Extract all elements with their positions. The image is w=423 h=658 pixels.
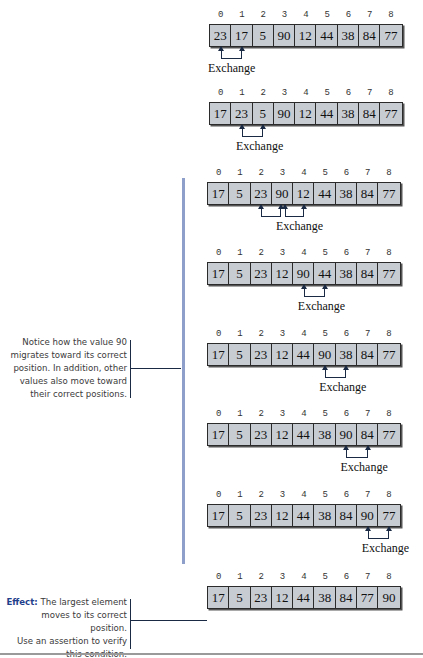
array-index: 3 [272,409,293,419]
array-cell: 5 [253,103,274,124]
effect-note-connector [130,620,207,621]
effect-label: Effect: [6,597,37,607]
pass-bracket-line [182,178,185,564]
effect-note-bracket [130,599,131,649]
exchange-label: Exchange [276,219,323,234]
array-cell: 44 [293,424,314,445]
array-index: 2 [251,572,272,582]
array-cell: 90 [272,183,293,204]
array-cell: 23 [251,183,272,204]
exchange-arrow [261,208,280,217]
array-index: 8 [380,10,401,20]
array-cell: 38 [336,344,357,365]
array-cell: 84 [357,424,378,445]
array-index: 4 [293,409,314,419]
exchange-label: Exchange [319,380,366,395]
exchange-arrow [242,128,263,137]
array-index: 8 [378,409,399,419]
exchange-label: Exchange [340,460,387,475]
array-index: 6 [336,572,357,582]
array-index: 3 [272,248,293,258]
array-cell: 77 [378,344,399,365]
array-index: 0 [210,10,231,20]
array-cell: 77 [378,263,399,284]
array-index: 3 [272,168,293,178]
array-cell: 12 [272,505,293,526]
array-index: 8 [378,329,399,339]
array-cell: 5 [229,587,250,608]
exchange-label: Exchange [236,139,283,154]
array-cell: 23 [251,587,272,608]
array-cell: 44 [314,183,335,204]
array-cell: 5 [229,424,250,445]
array-index: 2 [253,88,274,98]
array-cell: 77 [380,25,401,46]
array-cell: 90 [378,587,399,608]
array-index: 2 [253,10,274,20]
array-cell: 38 [336,263,357,284]
note-line: moves to its correct position. [4,609,127,635]
exchange-arrow [221,50,242,59]
array-cell: 90 [336,424,357,445]
array-index: 1 [231,88,252,98]
array-cell: 44 [293,505,314,526]
exchange-label: Exchange [208,61,255,76]
array-index: 4 [293,248,314,258]
array-cell: 12 [293,183,314,204]
array-cell: 17 [208,424,229,445]
exchange-label: Exchange [298,299,345,314]
array-index: 1 [229,490,250,500]
array-index: 1 [229,572,250,582]
array-cell: 38 [314,587,335,608]
array-index: 2 [251,329,272,339]
exchange-arrow [368,530,389,539]
array-cell: 5 [253,25,274,46]
note-line: position. In addition, other [8,362,127,375]
array-row: 17523124490388477 [207,343,401,366]
array-row: 17523124438908477 [207,423,401,446]
array-cell: 84 [357,344,378,365]
array-index: 7 [357,572,378,582]
note-text: The largest element [38,597,127,607]
array-cell: 23 [251,263,272,284]
note-line: Notice how the value 90 [8,336,127,349]
array-index: 6 [336,329,357,339]
array-index: 0 [208,329,229,339]
migration-note: Notice how the value 90 migrates toward … [8,336,127,401]
array-index: 3 [272,572,293,582]
array-cell: 12 [272,424,293,445]
array-index: 5 [317,10,338,20]
array-index: 4 [295,10,316,20]
array-index: 6 [336,409,357,419]
array-index: 8 [378,490,399,500]
array-index: 6 [336,248,357,258]
array-index: 4 [293,329,314,339]
array-index: 7 [357,329,378,339]
array-cell: 12 [272,263,293,284]
array-cell: 84 [359,103,380,124]
array-index: 6 [336,168,357,178]
array-cell: 38 [338,103,359,124]
array-cell: 23 [210,25,231,46]
array-index: 6 [338,88,359,98]
array-index: 4 [293,490,314,500]
array-row: 17523901244388477 [207,182,401,205]
exchange-arrow [285,208,304,217]
array-index: 4 [295,88,316,98]
array-cell: 77 [357,587,378,608]
array-index: 0 [210,88,231,98]
exchange-arrow [325,369,346,378]
array-index: 1 [229,168,250,178]
array-index: 5 [315,329,336,339]
array-index: 2 [251,490,272,500]
array-cell: 23 [251,424,272,445]
array-index: 3 [272,490,293,500]
array-index: 8 [378,168,399,178]
array-cell: 90 [293,263,314,284]
array-cell: 17 [208,587,229,608]
array-cell: 77 [380,103,401,124]
array-cell: 84 [359,25,380,46]
exchange-label: Exchange [362,541,409,556]
array-index: 6 [338,10,359,20]
array-index: 8 [378,572,399,582]
